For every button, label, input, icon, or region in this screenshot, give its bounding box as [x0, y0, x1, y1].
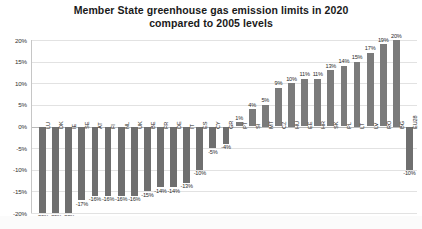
bar-LV [367, 53, 374, 127]
bar-value-EU28: -10% [398, 170, 420, 176]
y-tick-label: 5% [0, 101, 27, 108]
bar-value-GR: -4% [215, 144, 237, 150]
bar-EE [301, 79, 308, 127]
bar-label-CY: CY [215, 121, 221, 129]
y-tick-label: -10% [0, 166, 27, 173]
bar-LU [39, 127, 46, 214]
gridline--20 [31, 213, 417, 214]
bar-UK [131, 127, 138, 196]
y-tick-label: 0% [0, 123, 27, 130]
bar-value-ES: -10% [189, 170, 211, 176]
bar-label-FI: FI [110, 124, 116, 129]
bar-value-LT: 15% [346, 54, 368, 60]
bar-label-LV: LV [373, 122, 379, 128]
bar-label-LT: LT [359, 123, 365, 129]
chart-title-line-2: compared to 2005 levels [0, 17, 422, 30]
bar-value-HR: 11% [307, 71, 329, 77]
bar-label-ES: ES [202, 121, 208, 128]
bar-label-HR: HR [320, 121, 326, 129]
bar-value-LV: 17% [359, 45, 381, 51]
bar-label-NL: NL [124, 122, 130, 129]
bar-label-MT: MT [268, 121, 274, 129]
y-tick-label: 15% [0, 58, 27, 65]
bar-label-IT: IT [189, 124, 195, 129]
bar-label-PT: PT [242, 122, 248, 129]
bar-label-CZ: CZ [281, 121, 287, 128]
scan-artifact-strip [0, 216, 422, 229]
y-tick-label: -15% [0, 188, 27, 195]
bar-label-SK: SK [333, 121, 339, 128]
bar-value-MT: 5% [254, 97, 276, 103]
bar-label-BE: BE [150, 121, 156, 128]
bar-label-HU: HU [294, 121, 300, 129]
bar-BG [393, 40, 400, 127]
y-tick-label: 20% [0, 37, 27, 44]
bar-PL [341, 66, 348, 127]
bar-label-GR: GR [228, 120, 234, 128]
bar-HU [288, 83, 295, 126]
y-tick-label: 10% [0, 80, 27, 87]
bar-BE [144, 127, 151, 192]
bar-label-DK: DK [58, 121, 64, 129]
bar-NL [118, 127, 125, 196]
bar-label-AT: AT [97, 122, 103, 129]
bar-label-BG: BG [399, 121, 405, 129]
bar-EU28 [406, 127, 413, 170]
bar-DK [52, 127, 59, 214]
bar-label-FR: FR [163, 121, 169, 128]
bar-label-SI: SI [255, 123, 261, 128]
bar-SK [327, 70, 334, 126]
bar-GR [223, 127, 230, 144]
bar-label-LU: LU [45, 122, 51, 129]
plot-area: LU-20%DK-20%IE-20%SE-17%AT-16%FI-16%NL-1… [31, 40, 417, 213]
bar-RO [380, 44, 387, 126]
bar-value-IT: -13% [176, 183, 198, 189]
bar-AT [92, 127, 99, 196]
bar-label-EU28: EU28 [412, 115, 418, 129]
bar-SE [78, 127, 85, 201]
bar-LT [354, 62, 361, 127]
bar-CZ [275, 88, 282, 127]
bar-HR [314, 79, 321, 127]
bar-label-SE: SE [84, 121, 90, 128]
bar-label-RO: RO [386, 120, 392, 128]
bar-DE [170, 127, 177, 188]
bar-FR [157, 127, 164, 188]
bar-label-EE: EE [307, 121, 313, 128]
y-tick-label: -5% [0, 145, 27, 152]
bar-FI [105, 127, 112, 196]
bar-label-DE: DE [176, 121, 182, 129]
bar-value-PT: 1% [228, 115, 250, 121]
bar-label-UK: UK [137, 121, 143, 129]
chart-screenshot: Member State greenhouse gas emission lim… [0, 0, 422, 229]
chart-title-line-1: Member State greenhouse gas emission lim… [74, 4, 349, 16]
bar-label-IE: IE [71, 123, 77, 128]
bar-value-BG: 20% [385, 33, 407, 39]
bar-label-PL: PL [346, 122, 352, 129]
chart-title: Member State greenhouse gas emission lim… [0, 4, 422, 30]
